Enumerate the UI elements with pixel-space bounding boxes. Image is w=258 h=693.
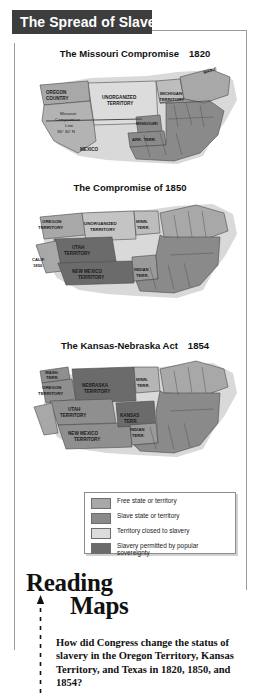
legend-swatch-slave [91,513,111,524]
legend-item-popular-sovereignty: Slavery permitted by popular sovereignty [91,542,229,556]
map-label: NEBRASKA [82,383,109,388]
map-label: INDIAN [130,427,144,432]
map-missouri-compromise: The Missouri Compromise1820 [24,48,246,166]
map-label: TERRITORY [38,391,63,396]
map-label: UNORGANIZED [84,221,117,226]
map-label: TERRITORY [78,275,104,280]
map-label: MISSOURI [136,121,158,126]
map-canvas-1: OREGON TERRITORY UNORGANIZED TERRITORY M… [24,195,242,300]
legend-label-popular-sovereignty: Slavery permitted by popular sovereignty [117,542,229,556]
legend-item-closed: Territory closed to slavery [91,527,229,539]
map-label: TERRITORY [159,97,184,102]
map-kansas-nebraska: The Kansas-Nebraska Act1854 [24,340,246,465]
map-label: UTAH [68,407,81,412]
reading-maps-heading: Reading Maps [26,570,246,619]
page-title: The Spread of Slavery [12,14,169,30]
map-label: COUNTRY [46,96,69,101]
right-rule [246,30,247,590]
left-rule [14,43,15,650]
map-label: TERR. [132,433,145,438]
map-label: TERR. [46,375,59,380]
legend-item-slave: Slave state or territory [91,512,229,524]
map-label: MEXICO [80,147,99,152]
top-right-rule [148,30,247,31]
map-year-2: 1854 [188,340,209,351]
legend-item-free: Free state or territory [91,497,229,509]
map-graphic-2: WASH. TERR. OREGON TERRITORY NEBRASKA TE… [24,353,242,465]
legend-swatch-closed [91,528,111,539]
map-label: UTAH [72,245,85,250]
map-title-text-1: The Compromise of 1850 [74,182,187,193]
legend-swatch-popular-sovereignty [91,543,111,554]
legend-label-slave: Slave state or territory [117,512,180,519]
map-label: TERRITORY [84,389,110,394]
map-label: Missouri [60,111,76,116]
map-graphic-0: OREGON COUNTRY UNORGANIZED TERRITORY MIC… [24,61,242,166]
map-label: TERR. [124,419,138,424]
map-year-0: 1820 [189,48,210,59]
map-label: TERRITORY [74,437,100,442]
map-label: 1850 [33,263,43,268]
map-label: MINN. [136,219,148,224]
feature-banner: The Spread of Slavery [12,10,152,34]
map-label: NEW MEXICO [72,269,103,274]
map-label: CALIF. [32,257,45,262]
textbook-map-feature: The Spread of Slavery The Missouri Compr… [0,0,258,693]
dashed-arrow-icon [36,594,45,693]
reading-maps-line2: Maps [70,593,246,619]
map-label: Compromise [55,117,80,122]
map-label: TERR. [137,225,150,230]
map-title-1: The Compromise of 1850 [24,182,246,193]
map-label: OREGON [42,219,62,224]
map-label: INDIAN [134,267,148,272]
reading-maps-question: How did Congress change the status of sl… [56,636,246,690]
map-title-text-0: The Missouri Compromise [60,48,179,59]
map-label: OREGON [42,385,62,390]
map-label: 36° 30' N [57,129,75,134]
map-label: Line [65,123,74,128]
map-label: NEW MEXICO [68,431,99,436]
legend-label-free: Free state or territory [117,497,177,504]
legend-label-closed: Territory closed to slavery [117,527,189,534]
map-legend: Free state or territory Slave state or t… [84,492,236,554]
map-label: MINN. [136,377,148,382]
map-title-0: The Missouri Compromise1820 [24,48,246,59]
map-label: MICHIGAN [160,91,182,96]
map-label: KANSAS [120,413,139,418]
map-compromise-1850: The Compromise of 1850 OR [24,182,246,300]
map-label: TERRITORY [90,227,115,232]
map-label: TERRITORY [64,251,90,256]
map-label: TERR. [137,383,150,388]
map-title-2: The Kansas-Nebraska Act1854 [24,340,246,351]
map-graphic-1: OREGON TERRITORY UNORGANIZED TERRITORY M… [24,195,242,300]
map-title-text-2: The Kansas-Nebraska Act [61,340,178,351]
map-canvas-2: WASH. TERR. OREGON TERRITORY NEBRASKA TE… [24,353,242,465]
map-canvas-0: OREGON COUNTRY UNORGANIZED TERRITORY MIC… [24,61,242,166]
map-label: UNORGANIZED [102,95,137,100]
legend-swatch-free [91,498,111,509]
map-label: TERRITORY [60,413,86,418]
map-label: ARK. TERR. [132,137,156,142]
map-label: OREGON [46,90,67,95]
map-label: TERR. [136,273,149,278]
map-label: TERRITORY [38,225,63,230]
map-label: TERRITORY [107,101,133,106]
